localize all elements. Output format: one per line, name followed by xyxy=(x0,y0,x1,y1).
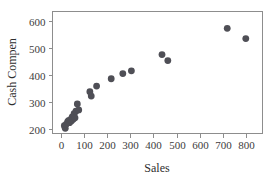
x-tick-label: 300 xyxy=(122,139,139,151)
data-point xyxy=(72,114,79,121)
data-point xyxy=(75,107,82,114)
scatter-plot-canvas: 0100200300400500600700800 20030040050060… xyxy=(0,0,276,179)
data-point xyxy=(119,70,126,77)
data-point xyxy=(74,101,81,108)
data-point xyxy=(93,83,100,90)
y-tick-label: 400 xyxy=(29,70,46,82)
data-point xyxy=(128,67,135,74)
x-axis-tick-labels: 0100200300400500600700800 xyxy=(59,139,256,151)
y-tick-label: 300 xyxy=(29,97,46,109)
x-tick-label: 600 xyxy=(192,139,209,151)
data-point xyxy=(242,35,249,42)
y-axis-tick-marks xyxy=(49,22,53,130)
scatter-plot-figure: 0100200300400500600700800 20030040050060… xyxy=(0,0,276,179)
data-point xyxy=(108,75,115,82)
data-point xyxy=(224,25,231,32)
plot-frame-border xyxy=(53,12,263,134)
data-point xyxy=(164,57,171,64)
plot-frame xyxy=(53,12,263,134)
x-axis-tick-marks xyxy=(62,134,247,138)
y-tick-label: 500 xyxy=(29,43,46,55)
y-tick-label: 200 xyxy=(29,124,46,136)
x-tick-label: 200 xyxy=(99,139,116,151)
x-axis-title: Sales xyxy=(144,161,170,175)
data-point-group xyxy=(61,25,249,132)
data-point xyxy=(88,93,95,100)
x-tick-label: 500 xyxy=(169,139,186,151)
y-tick-label: 600 xyxy=(29,16,46,28)
y-axis-title: Cash Compen xyxy=(5,38,19,106)
x-tick-label: 400 xyxy=(145,139,162,151)
x-tick-label: 0 xyxy=(59,139,65,151)
data-point xyxy=(159,51,166,58)
x-tick-label: 800 xyxy=(238,139,255,151)
y-axis-tick-labels: 200300400500600 xyxy=(29,16,46,136)
x-tick-label: 100 xyxy=(76,139,93,151)
x-tick-label: 700 xyxy=(215,139,232,151)
